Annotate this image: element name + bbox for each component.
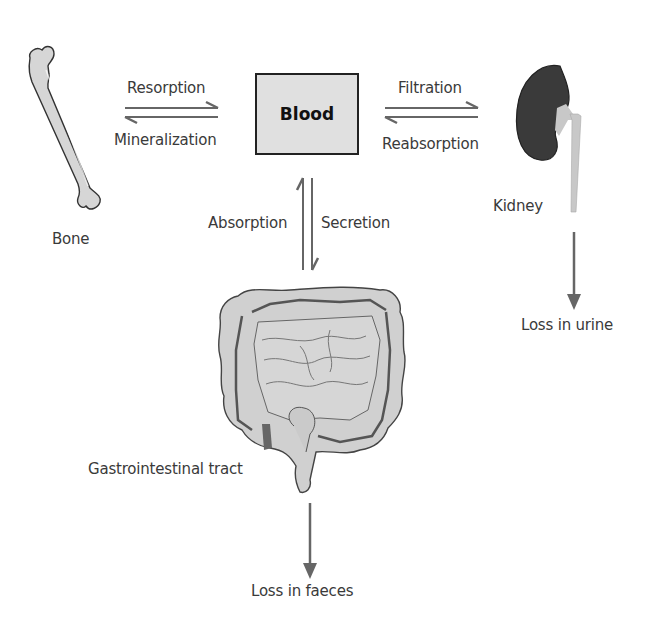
blood-kidney-arrows bbox=[385, 102, 478, 123]
urine-loss-label: Loss in urine bbox=[521, 316, 613, 334]
kidney-label: Kidney bbox=[493, 197, 543, 215]
kidney-icon bbox=[516, 65, 581, 212]
reabsorption-label: Reabsorption bbox=[382, 135, 479, 153]
bone-label: Bone bbox=[52, 230, 89, 248]
absorption-label: Absorption bbox=[208, 214, 287, 232]
bone-blood-arrows bbox=[125, 102, 218, 123]
gi-tract-icon bbox=[219, 287, 406, 492]
bone-icon bbox=[29, 47, 100, 209]
blood-label: Blood bbox=[280, 104, 334, 124]
gi-tract-label: Gastrointestinal tract bbox=[88, 460, 243, 478]
blood-box: Blood bbox=[255, 73, 359, 155]
faeces-loss-label: Loss in faeces bbox=[251, 582, 353, 600]
filtration-label: Filtration bbox=[398, 79, 462, 97]
mineralization-label: Mineralization bbox=[114, 131, 217, 149]
secretion-label: Secretion bbox=[321, 214, 390, 232]
resorption-label: Resorption bbox=[127, 79, 205, 97]
blood-gi-arrows bbox=[297, 178, 318, 270]
